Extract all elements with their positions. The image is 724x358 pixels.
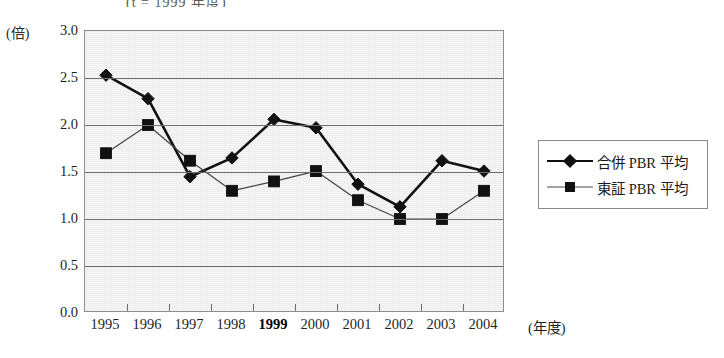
legend-label-merged: 合併 PBR 平均 bbox=[593, 151, 688, 172]
y-axis-tick-label: 0.5 bbox=[4, 257, 78, 274]
legend-item-merged: 合併 PBR 平均 bbox=[547, 148, 699, 174]
y-axis-tick-label: 1.0 bbox=[4, 210, 78, 227]
y-axis-tick-label: 1.5 bbox=[4, 163, 78, 180]
chart-title-clipped: (t = 1999 年度) bbox=[126, 0, 346, 7]
x-axis-tick-label: 2000 bbox=[301, 316, 330, 333]
x-axis-unit-label: (年度) bbox=[528, 316, 566, 337]
data-point-square bbox=[269, 176, 280, 187]
gridline bbox=[85, 172, 503, 173]
y-axis-tick-label: 2.5 bbox=[4, 69, 78, 86]
gridline bbox=[85, 219, 503, 220]
x-axis-tick-label: 2002 bbox=[385, 316, 414, 333]
x-axis-tick bbox=[379, 304, 380, 311]
x-axis-tick-label: 1999 bbox=[259, 316, 288, 333]
data-point-diamond bbox=[142, 92, 154, 104]
x-axis-tick-label: 2004 bbox=[469, 316, 498, 333]
legend-item-tse: 東証 PBR 平均 bbox=[547, 174, 699, 200]
y-axis-tick-label: 3.0 bbox=[4, 22, 78, 39]
gridline bbox=[85, 125, 503, 126]
square-marker-icon bbox=[547, 179, 593, 195]
x-axis-tick bbox=[463, 304, 464, 311]
x-axis-tick bbox=[169, 304, 170, 311]
gridline bbox=[85, 266, 503, 267]
y-axis-tick-label: 0.0 bbox=[4, 304, 78, 321]
x-axis-tick bbox=[253, 304, 254, 311]
data-point-diamond bbox=[100, 69, 112, 81]
x-axis-tick-label: 1998 bbox=[217, 316, 246, 333]
legend-label-tse: 東証 PBR 平均 bbox=[593, 177, 688, 198]
x-axis-tick bbox=[127, 304, 128, 311]
x-axis-tick bbox=[295, 304, 296, 311]
plot-area bbox=[84, 30, 504, 312]
x-axis-tick-label: 2001 bbox=[343, 316, 372, 333]
chart-legend: 合併 PBR 平均 東証 PBR 平均 bbox=[538, 140, 708, 209]
diamond-marker-icon bbox=[547, 153, 593, 169]
x-axis-tick-label: 1995 bbox=[91, 316, 120, 333]
chart-figure: (t = 1999 年度) (倍) 3.02.52.01.51.00.50.0 … bbox=[0, 0, 724, 358]
data-point-square bbox=[227, 185, 238, 196]
x-axis-tick-label: 1997 bbox=[175, 316, 204, 333]
y-axis-tick-label: 2.0 bbox=[4, 116, 78, 133]
data-point-square bbox=[101, 148, 112, 159]
y-axis-tick-labels: 3.02.52.01.51.00.50.0 bbox=[0, 30, 78, 312]
gridline bbox=[85, 78, 503, 79]
x-axis-tick bbox=[337, 304, 338, 311]
data-point-square bbox=[479, 185, 490, 196]
x-axis-tick-label: 1996 bbox=[133, 316, 162, 333]
series-line bbox=[106, 75, 484, 207]
x-axis-tick-labels: 1995199619971998199920002001200220032004 bbox=[84, 316, 504, 338]
x-axis-tick bbox=[211, 304, 212, 311]
x-axis-tick bbox=[421, 304, 422, 311]
data-point-square bbox=[353, 195, 364, 206]
x-axis-tick-label: 2003 bbox=[427, 316, 456, 333]
data-point-square bbox=[185, 155, 196, 166]
